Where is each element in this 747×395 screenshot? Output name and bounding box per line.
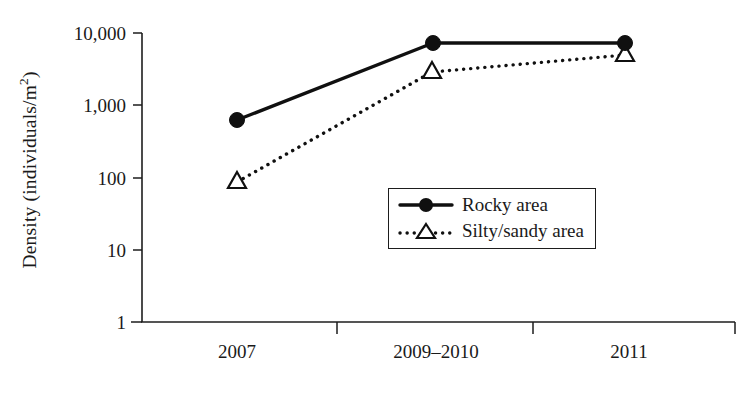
legend-label-silty-sandy: Silty/sandy area: [462, 220, 584, 242]
y-tick-label-3: 10: [107, 240, 126, 261]
series-silty-sandy: [228, 45, 634, 188]
marker-rocky-2011: [618, 36, 633, 51]
legend-item-rocky: Rocky area: [398, 192, 548, 218]
plot-area: 10,000 1,000 100 10 1: [0, 0, 747, 395]
y-tick-label-1: 1,000: [83, 95, 126, 116]
y-axis-ticks: [131, 33, 142, 322]
chart-legend: Rocky area Silty/sandy area: [388, 188, 596, 249]
x-tick-label-0: 2007: [218, 341, 256, 363]
chart-figure: Density (individuals/m2) 10,000 1,000 10…: [0, 0, 747, 395]
y-axis-tick-labels: 10,000 1,000 100 10 1: [74, 23, 126, 333]
marker-rocky-2007: [230, 113, 245, 128]
legend-swatch-rocky: [398, 195, 454, 215]
x-tick-label-2: 2011: [610, 341, 647, 363]
legend-label-rocky: Rocky area: [462, 194, 548, 216]
marker-rocky-2009-2010: [426, 36, 441, 51]
marker-silty-sandy-2009-2010: [423, 62, 441, 78]
series-rocky: [230, 36, 633, 128]
y-tick-label-0: 10,000: [74, 23, 126, 44]
legend-swatch-silty-sandy: [398, 221, 454, 241]
x-tick-label-1: 2009–2010: [393, 341, 479, 363]
legend-item-silty-sandy: Silty/sandy area: [398, 218, 584, 244]
y-tick-label-4: 1: [117, 312, 127, 333]
y-tick-label-2: 100: [98, 168, 127, 189]
x-axis-ticks: [337, 322, 735, 334]
series-rocky-line: [237, 43, 625, 120]
